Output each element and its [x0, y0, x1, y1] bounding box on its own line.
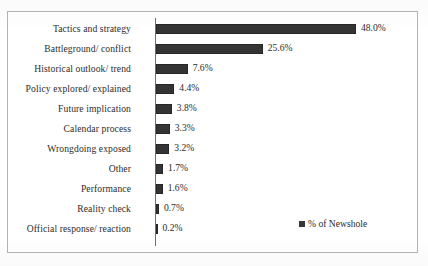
bar-value-label: 3.3% [175, 120, 195, 135]
bar-track [156, 184, 163, 194]
figure-caption [9, 257, 309, 266]
bar-track [156, 104, 172, 114]
bar-row: Policy explored/ explained4.4% [8, 79, 417, 99]
bar-track [156, 124, 170, 134]
bar-value-label: 1.6% [168, 180, 188, 195]
bar-track [156, 84, 174, 94]
bar-value-label: 25.6% [268, 40, 293, 55]
chart-frame: Tactics and strategy48.0%Battleground/ c… [7, 11, 418, 253]
bar-chart-figure: Tactics and strategy48.0%Battleground/ c… [0, 0, 428, 266]
legend-swatch-icon [299, 221, 305, 227]
bar-row: Tactics and strategy48.0% [8, 19, 417, 39]
bar-value-label: 3.2% [174, 140, 194, 155]
bar-value-label: 4.4% [179, 80, 199, 95]
bar-category-label: Official response/ reaction [0, 221, 131, 236]
bar-category-label: Future implication [0, 101, 131, 116]
plot-area: Tactics and strategy48.0%Battleground/ c… [8, 12, 417, 252]
bar-category-label: Tactics and strategy [0, 21, 131, 36]
chart-legend: % of Newshole [299, 217, 367, 231]
bar-category-label: Other [0, 161, 131, 176]
bar-value-label: 0.2% [163, 220, 183, 235]
bar-fill [156, 124, 170, 134]
bar-row: Calendar process3.3% [8, 119, 417, 139]
legend-entry-label: % of Newshole [308, 217, 367, 231]
bar-track [156, 24, 356, 34]
bar-value-label: 7.6% [193, 60, 213, 75]
bar-value-label: 0.7% [164, 200, 184, 215]
bar-track [156, 164, 163, 174]
bar-fill [156, 144, 169, 154]
bar-fill [156, 184, 163, 194]
bar-row: Wrongdoing exposed3.2% [8, 139, 417, 159]
bar-fill [156, 104, 172, 114]
bar-row: Battleground/ conflict25.6% [8, 39, 417, 59]
bar-track [156, 204, 159, 214]
bar-row: Other1.7% [8, 159, 417, 179]
bar-fill [156, 164, 163, 174]
bar-track [156, 44, 263, 54]
bar-value-label: 48.0% [361, 20, 386, 35]
bar-fill [156, 64, 188, 74]
bar-value-label: 3.8% [177, 100, 197, 115]
bar-row: Performance1.6% [8, 179, 417, 199]
bar-category-label: Historical outlook/ trend [0, 61, 131, 76]
bar-category-label: Battleground/ conflict [0, 41, 131, 56]
bar-row: Reality check0.7% [8, 199, 417, 219]
bar-category-label: Performance [0, 181, 131, 196]
bar-fill [156, 24, 356, 34]
bar-category-label: Calendar process [0, 121, 131, 136]
bar-track [156, 144, 169, 154]
bar-category-label: Reality check [0, 201, 131, 216]
bar-value-label: 1.7% [168, 160, 188, 175]
bar-category-label: Policy explored/ explained [0, 81, 131, 96]
bar-fill [156, 224, 158, 234]
bar-category-label: Wrongdoing exposed [0, 141, 131, 156]
bar-track [156, 64, 188, 74]
bar-fill [156, 204, 159, 214]
bar-track [156, 224, 158, 234]
bar-row: Future implication3.8% [8, 99, 417, 119]
bar-fill [156, 44, 263, 54]
bar-row: Historical outlook/ trend7.6% [8, 59, 417, 79]
bar-fill [156, 84, 174, 94]
